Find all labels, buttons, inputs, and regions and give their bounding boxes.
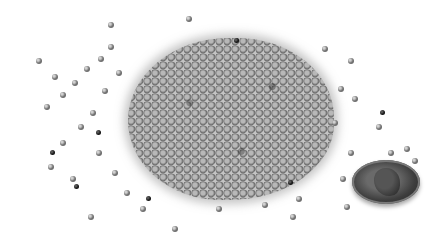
seed — [348, 58, 354, 64]
seed — [262, 202, 268, 208]
seed — [352, 96, 358, 102]
seed — [186, 16, 192, 22]
seed — [44, 104, 50, 110]
seed — [112, 170, 118, 176]
seed — [322, 46, 328, 52]
seed — [72, 80, 78, 86]
seed — [140, 206, 146, 212]
dark-seed — [74, 184, 79, 189]
seed — [108, 44, 114, 50]
seed — [296, 196, 302, 202]
seed — [412, 158, 418, 164]
seed — [78, 124, 84, 130]
seed — [88, 214, 94, 220]
dark-seed — [288, 180, 293, 185]
seed — [84, 66, 90, 72]
seed — [60, 92, 66, 98]
seed — [172, 226, 178, 232]
seed — [98, 56, 104, 62]
seed — [70, 176, 76, 182]
seed — [124, 190, 130, 196]
seed — [404, 146, 410, 152]
seed — [332, 120, 338, 126]
seed — [60, 140, 66, 146]
seed — [96, 150, 102, 156]
seed-pile — [128, 38, 334, 200]
seed — [340, 176, 346, 182]
seed — [102, 88, 108, 94]
dark-seed — [96, 130, 101, 135]
seed — [216, 206, 222, 212]
seed — [108, 22, 114, 28]
seed — [48, 164, 54, 170]
seed — [52, 74, 58, 80]
seed — [348, 150, 354, 156]
dark-seed — [50, 150, 55, 155]
seed — [376, 124, 382, 130]
seed — [36, 58, 42, 64]
seed — [338, 86, 344, 92]
seed — [290, 214, 296, 220]
lincoln-profile — [374, 168, 400, 196]
seed — [116, 70, 122, 76]
seed-photo — [0, 0, 448, 249]
seed — [388, 150, 394, 156]
seed — [344, 204, 350, 210]
penny-coin — [352, 160, 420, 204]
dark-seed — [380, 110, 385, 115]
dark-seed — [146, 196, 151, 201]
seed — [90, 110, 96, 116]
dark-seed — [234, 38, 239, 43]
